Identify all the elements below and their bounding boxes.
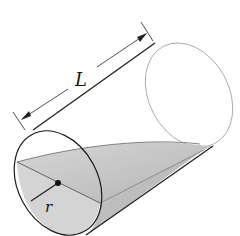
arrowhead-left-icon <box>21 111 31 120</box>
diagram-svg: L r <box>0 0 240 236</box>
radius-label: r <box>45 198 53 216</box>
center-dot <box>55 180 61 186</box>
cylinder-wedge-diagram: L r <box>0 0 240 236</box>
top-edge <box>33 43 155 130</box>
length-label: L <box>74 69 87 90</box>
arrowhead-right-icon <box>137 33 147 42</box>
dim-tick-left <box>13 112 25 130</box>
